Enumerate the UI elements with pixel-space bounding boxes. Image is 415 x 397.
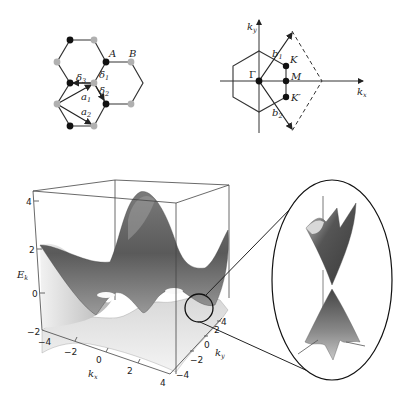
y-axis-label: ky [215,347,225,360]
label-M: M [290,71,302,82]
x-label-sub: x [94,373,98,381]
lattice-sites [54,37,135,130]
site-B [54,101,61,108]
y-tick-neg4: −4 [176,370,190,380]
site-A [103,101,110,108]
y-tick-0: 0 [204,340,210,350]
gamma-point [256,78,263,85]
z-tick-0: 0 [32,289,38,299]
label-B: B [128,48,136,59]
K-point [283,63,289,69]
band-structure-3d: 4 2 0 −2 Ek −4 −2 0 2 4 kx 4 2 0 −2 −4 k… [16,180,229,388]
svg-text:kx: kx [357,86,367,99]
dirac-gap-2 [165,288,183,294]
svg-text:a2: a2 [81,106,91,119]
M-point [283,78,289,84]
label-A: A [108,48,116,59]
Kprime-point [283,94,289,100]
label-a1-sub: 1 [87,96,91,104]
site-B [128,101,135,108]
dirac-gap-1 [97,292,115,298]
svg-text:δ1: δ1 [99,69,109,82]
z-tick-4: 4 [26,197,32,207]
site-B [128,59,135,66]
svg-text:b2: b2 [272,107,283,120]
z-tick-2: 2 [29,245,35,255]
x-tick-0: 0 [96,355,102,365]
label-a2-sub: 2 [86,111,91,119]
label-kx-sub: x [363,91,367,99]
x-tick-neg2: −2 [64,347,77,357]
x-axis-label: kx [88,368,98,381]
site-B [91,123,98,130]
label-Kprime: K′ [290,92,301,103]
site-B [54,59,61,66]
dirac-cone-inset [272,180,392,380]
y-tick-neg2: −2 [190,355,203,365]
brillouin-zone: Γ K M K′ b1 b2 kx ky [220,20,367,133]
x-tick-neg4: −4 [38,337,52,347]
label-b2-sub: 2 [277,112,282,120]
x-tick-4: 4 [160,378,166,388]
z-label-sub: k [24,274,28,282]
y-label-sub: y [220,352,225,360]
site-A [67,123,74,130]
b2-arrow [259,81,292,129]
label-b1-sub: 1 [278,53,282,61]
svg-text:ky: ky [247,21,257,34]
y-tick-4: 4 [221,317,227,327]
svg-text:δ2: δ2 [99,85,109,98]
site-B [91,80,98,87]
graphene-figure: A B δ3 δ1 δ2 a1 a2 Γ K M K′ b1 b2 kx ky [0,0,415,397]
x-tick-2: 2 [127,366,133,376]
label-delta3-sub: 3 [82,77,86,85]
label-gamma: Γ [249,69,256,80]
label-K: K [289,54,298,65]
lattice-vectors [57,83,104,124]
z-axis-label: Ek [16,269,28,282]
site-A [103,59,110,66]
site-A [67,80,74,87]
label-delta2-sub: 2 [104,90,109,98]
label-delta1-sub: 1 [105,74,109,82]
svg-text:a1: a1 [81,91,91,104]
z-tick-neg2: −2 [27,327,40,337]
label-ky-sub: y [252,26,257,34]
site-A [67,37,74,44]
site-B [91,37,98,44]
